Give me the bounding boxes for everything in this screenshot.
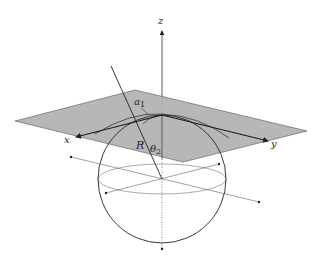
radius-label: R bbox=[135, 139, 144, 152]
y-label: y bbox=[270, 138, 277, 149]
diameter-line-2 bbox=[106, 164, 219, 193]
diameter-line-1 bbox=[71, 157, 259, 202]
z-label: z bbox=[157, 15, 164, 26]
sphere-plane-diagram: z x y R a1 θ2 bbox=[0, 0, 317, 263]
x-label: x bbox=[64, 134, 70, 145]
